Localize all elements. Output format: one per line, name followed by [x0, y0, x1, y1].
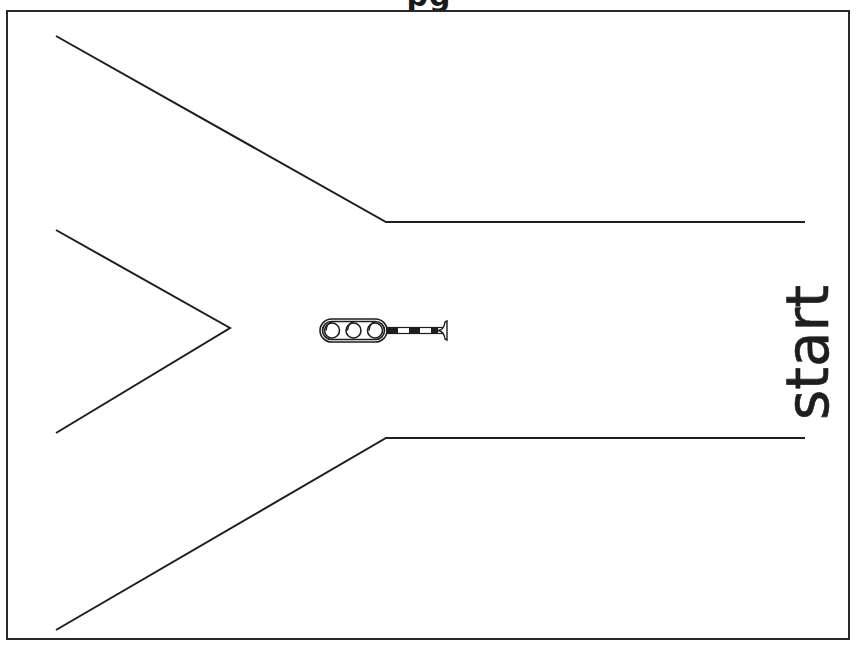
road-diagram [0, 0, 858, 657]
start-text: start [774, 285, 842, 420]
road-edge-lower [56, 438, 805, 630]
traffic-light-icon [320, 319, 447, 342]
road-edge-upper [56, 36, 805, 222]
start-label: start [770, 230, 850, 430]
road-fork-inner-edge [56, 230, 230, 433]
